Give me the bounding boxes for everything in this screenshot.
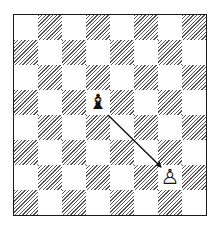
square-d2 — [86, 165, 110, 190]
square-f4 — [134, 115, 158, 140]
white-pawn-icon: ♙ — [158, 165, 182, 190]
square-c8 — [62, 15, 86, 40]
square-g2: ♙ — [158, 165, 182, 190]
square-a3 — [14, 140, 38, 165]
square-e4 — [110, 115, 134, 140]
square-c2 — [62, 165, 86, 190]
square-b7 — [38, 40, 62, 65]
square-g7 — [158, 40, 182, 65]
square-a6 — [14, 65, 38, 90]
square-h8 — [182, 15, 206, 40]
square-e3 — [110, 140, 134, 165]
square-f1 — [134, 190, 158, 215]
square-c6 — [62, 65, 86, 90]
square-e8 — [110, 15, 134, 40]
square-a7 — [14, 40, 38, 65]
chess-board: ♝♙ — [13, 14, 207, 216]
square-g5 — [158, 90, 182, 115]
square-c1 — [62, 190, 86, 215]
square-h2 — [182, 165, 206, 190]
square-a5 — [14, 90, 38, 115]
square-g4 — [158, 115, 182, 140]
square-d1 — [86, 190, 110, 215]
square-d3 — [86, 140, 110, 165]
square-d5: ♝ — [86, 90, 110, 115]
square-d4 — [86, 115, 110, 140]
square-b4 — [38, 115, 62, 140]
square-f7 — [134, 40, 158, 65]
black-bishop-icon: ♝ — [86, 90, 110, 115]
square-h6 — [182, 65, 206, 90]
square-e5 — [110, 90, 134, 115]
square-a2 — [14, 165, 38, 190]
square-e1 — [110, 190, 134, 215]
square-b8 — [38, 15, 62, 40]
square-e2 — [110, 165, 134, 190]
square-b5 — [38, 90, 62, 115]
square-b2 — [38, 165, 62, 190]
square-d6 — [86, 65, 110, 90]
square-c7 — [62, 40, 86, 65]
square-a4 — [14, 115, 38, 140]
square-b1 — [38, 190, 62, 215]
square-h7 — [182, 40, 206, 65]
square-f2 — [134, 165, 158, 190]
square-f5 — [134, 90, 158, 115]
square-b6 — [38, 65, 62, 90]
square-c4 — [62, 115, 86, 140]
square-a1 — [14, 190, 38, 215]
square-c5 — [62, 90, 86, 115]
square-h3 — [182, 140, 206, 165]
square-f8 — [134, 15, 158, 40]
square-b3 — [38, 140, 62, 165]
square-g1 — [158, 190, 182, 215]
square-e7 — [110, 40, 134, 65]
square-f6 — [134, 65, 158, 90]
square-h4 — [182, 115, 206, 140]
square-d8 — [86, 15, 110, 40]
square-h5 — [182, 90, 206, 115]
square-c3 — [62, 140, 86, 165]
square-h1 — [182, 190, 206, 215]
square-f3 — [134, 140, 158, 165]
square-g6 — [158, 65, 182, 90]
square-g3 — [158, 140, 182, 165]
square-d7 — [86, 40, 110, 65]
square-a8 — [14, 15, 38, 40]
square-g8 — [158, 15, 182, 40]
square-e6 — [110, 65, 134, 90]
